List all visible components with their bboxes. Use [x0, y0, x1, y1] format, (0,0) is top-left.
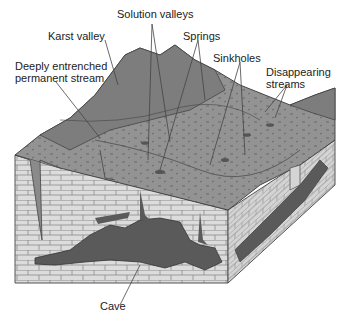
label-solution-valleys: Solution valleys	[117, 8, 193, 20]
label-deeply-entrenched-line2: permanent stream	[15, 72, 104, 84]
block-diagram-illustration	[0, 0, 343, 325]
label-karst-valley: Karst valley	[48, 30, 105, 42]
label-deeply-entrenched-line1: Deeply entrenched	[15, 60, 107, 72]
label-cave: Cave	[100, 300, 126, 312]
label-springs: Springs	[183, 30, 220, 42]
label-sinkholes: Sinkholes	[213, 52, 261, 64]
label-disappearing-line2: streams	[266, 78, 305, 90]
label-disappearing-line1: Disappearing	[266, 66, 331, 78]
karst-diagram: Solution valleys Karst valley Deeply ent…	[0, 0, 343, 325]
